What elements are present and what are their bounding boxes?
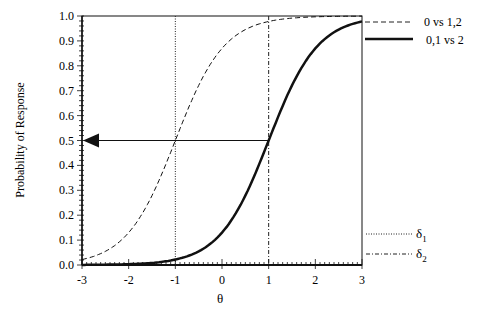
x-tick-label: -3: [77, 273, 87, 287]
x-axis-label: θ: [217, 291, 223, 306]
y-axis-label: Probability of Response: [13, 82, 27, 197]
x-tick-label: 2: [312, 273, 318, 287]
curve-0-vs-12: [82, 16, 362, 260]
y-tick-label: 0.4: [59, 158, 74, 172]
y-tick-label: 0.8: [59, 59, 74, 73]
y-tick-label: 0.0: [59, 258, 74, 272]
legend: 0 vs 1,2 0,1 vs 2 δ1 δ2: [365, 15, 464, 264]
y-tick-label: 1.0: [59, 9, 74, 23]
y-tick-label: 0.7: [59, 84, 74, 98]
y-tick-label: 0.3: [59, 183, 74, 197]
y-tick-label: 0.5: [59, 134, 74, 148]
x-tick-label: 3: [359, 273, 365, 287]
x-tick-label: 0: [219, 273, 225, 287]
x-tick-label: -2: [124, 273, 134, 287]
axes: 0.00.10.20.30.40.50.60.70.80.91.0-3-2-10…: [59, 9, 365, 287]
y-tick-label: 0.9: [59, 34, 74, 48]
arrowhead-icon: [83, 134, 99, 148]
irt-chart: 0.00.10.20.30.40.50.60.70.80.91.0-3-2-10…: [0, 0, 480, 321]
y-tick-label: 0.1: [59, 233, 74, 247]
y-tick-label: 0.6: [59, 109, 74, 123]
y-tick-label: 0.2: [59, 208, 74, 222]
curve-01-vs-2: [82, 21, 362, 265]
x-tick-label: -1: [170, 273, 180, 287]
legend-delta2-label: δ2: [416, 246, 427, 264]
x-tick-label: 1: [266, 273, 272, 287]
half-probability-arrow: [83, 134, 269, 148]
legend-dashed-label: 0 vs 1,2: [424, 15, 462, 29]
legend-solid-label: 0,1 vs 2: [426, 33, 464, 47]
legend-delta1-label: δ1: [416, 226, 427, 244]
